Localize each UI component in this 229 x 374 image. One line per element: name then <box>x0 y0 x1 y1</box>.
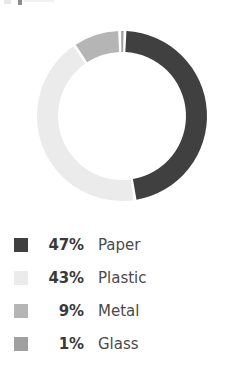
donut-chart-svg: 47% Paper43% Plastic9% Metal1% Glass <box>0 8 229 224</box>
legend-swatch-metal <box>14 304 28 318</box>
legend-item-metal[interactable]: 9%Metal <box>0 294 229 327</box>
legend-label: Plastic <box>98 269 147 287</box>
legend-item-paper[interactable]: 47%Paper <box>0 228 229 261</box>
artifact-mark-2 <box>18 0 22 5</box>
donut-slice-paper[interactable]: 47% Paper <box>125 31 207 200</box>
chart-legend: 47%Paper43%Plastic9%Metal1%Glass <box>0 228 229 360</box>
legend-label: Metal <box>98 302 139 320</box>
donut-slice-metal[interactable]: 9% Metal <box>76 31 119 62</box>
donut-slice-group: 47% Paper43% Plastic9% Metal1% Glass <box>37 31 207 201</box>
legend-percent: 43% <box>38 269 84 287</box>
artifact-mark-3 <box>24 0 54 2</box>
legend-percent: 9% <box>38 302 84 320</box>
donut-slice-glass[interactable]: 1% Glass <box>121 31 123 52</box>
legend-swatch-paper <box>14 238 28 252</box>
legend-label: Glass <box>98 335 139 353</box>
legend-item-glass[interactable]: 1%Glass <box>0 327 229 360</box>
donut-chart: 47% Paper43% Plastic9% Metal1% Glass <box>0 8 229 224</box>
donut-slice-plastic[interactable]: 43% Plastic <box>37 46 134 201</box>
legend-item-plastic[interactable]: 43%Plastic <box>0 261 229 294</box>
legend-swatch-glass <box>14 337 28 351</box>
legend-swatch-plastic <box>14 271 28 285</box>
legend-percent: 47% <box>38 236 84 254</box>
clipped-edge-artifact <box>0 0 229 6</box>
legend-percent: 1% <box>38 335 84 353</box>
artifact-mark-1 <box>4 0 11 4</box>
legend-label: Paper <box>98 236 140 254</box>
chart-page: 47% Paper43% Plastic9% Metal1% Glass 47%… <box>0 0 229 374</box>
